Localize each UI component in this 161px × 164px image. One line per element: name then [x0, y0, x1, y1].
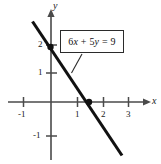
- xtick-label-2: 2: [101, 110, 106, 119]
- ytick-label-neg1: -1: [33, 131, 41, 140]
- callout-leader-line: [72, 54, 83, 73]
- equation-right-side: = 9: [99, 36, 115, 47]
- equation-operator: + 5: [78, 36, 94, 47]
- xtick-label-neg1: -1: [18, 110, 26, 119]
- xtick-label-3: 3: [126, 110, 131, 119]
- ytick-label-2: 2: [38, 40, 43, 49]
- y-axis: [47, 9, 54, 160]
- xtick-label-1: 1: [75, 110, 80, 119]
- graph-figure: 6x + 5y = 9 -1 1 2 3 2 1 -1 x y: [0, 0, 161, 164]
- point-marker-x-intercept: [86, 99, 92, 105]
- equation-label: 6x + 5y = 9: [68, 36, 115, 47]
- equation-callout-box: 6x + 5y = 9: [60, 30, 124, 53]
- coordinate-plane: [0, 0, 161, 164]
- point-marker-y-intercept: [47, 44, 53, 50]
- ytick-label-1: 1: [38, 68, 43, 77]
- y-axis-label: y: [53, 1, 57, 11]
- x-axis-arrow: [143, 98, 151, 105]
- x-axis-label: x: [152, 96, 156, 106]
- x-axis: [8, 98, 151, 105]
